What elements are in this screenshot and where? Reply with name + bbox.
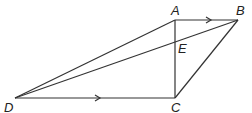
- diagram-canvas: [0, 0, 252, 113]
- segment-cb: [175, 20, 238, 98]
- segment-da: [15, 20, 175, 98]
- label-d: D: [4, 101, 13, 113]
- label-b: B: [236, 4, 245, 17]
- geometry-diagram: A B E C D: [0, 0, 252, 113]
- label-c: C: [171, 101, 180, 113]
- label-e: E: [178, 42, 187, 55]
- label-a: A: [171, 4, 180, 17]
- segment-db: [15, 20, 238, 98]
